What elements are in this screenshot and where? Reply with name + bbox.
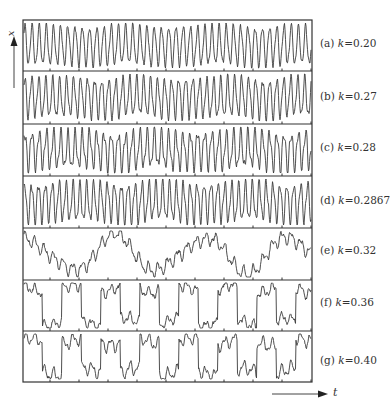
- panel-label-a: (a) k=0.20: [320, 37, 376, 49]
- panel-label-g: (g) k=0.40: [320, 354, 377, 366]
- panel-label-c: (c) k=0.28: [320, 141, 376, 153]
- waveform-c: [24, 127, 311, 173]
- x-axis-label: t: [333, 386, 337, 399]
- waveform-f: [24, 283, 311, 328]
- waveform-g: [24, 334, 311, 379]
- waveform-e: [24, 231, 311, 277]
- panel-label-d: (d) k=0.2867: [320, 194, 390, 206]
- panel-label-f: (f) k=0.36: [320, 296, 374, 308]
- panel-label-e: (e) k=0.32: [320, 244, 376, 256]
- y-axis-label: x: [5, 31, 16, 37]
- panels-group: [23, 20, 312, 382]
- waveform-b: [24, 74, 311, 121]
- waveform-d: [24, 179, 311, 225]
- x-axis-arrow: [272, 391, 328, 398]
- y-axis-arrow: [11, 36, 18, 88]
- plot-frame: [23, 20, 312, 382]
- panel-label-b: (b) k=0.27: [320, 90, 377, 102]
- waveform-a: [24, 23, 311, 68]
